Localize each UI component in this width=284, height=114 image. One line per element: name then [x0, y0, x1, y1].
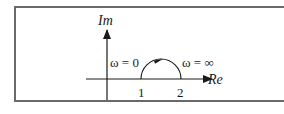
nyquist-curve	[141, 59, 181, 79]
nyquist-diagram: Im Re ω = 0 ω = ∞ 1 2	[0, 0, 284, 114]
tick-label-2: 2	[177, 85, 184, 100]
real-axis-label: Re	[207, 72, 223, 87]
end-annotation: ω = ∞	[182, 55, 214, 70]
start-annotation: ω = 0	[110, 55, 139, 70]
imaginary-axis-label: Im	[97, 13, 113, 28]
tick-label-1: 1	[138, 85, 145, 100]
